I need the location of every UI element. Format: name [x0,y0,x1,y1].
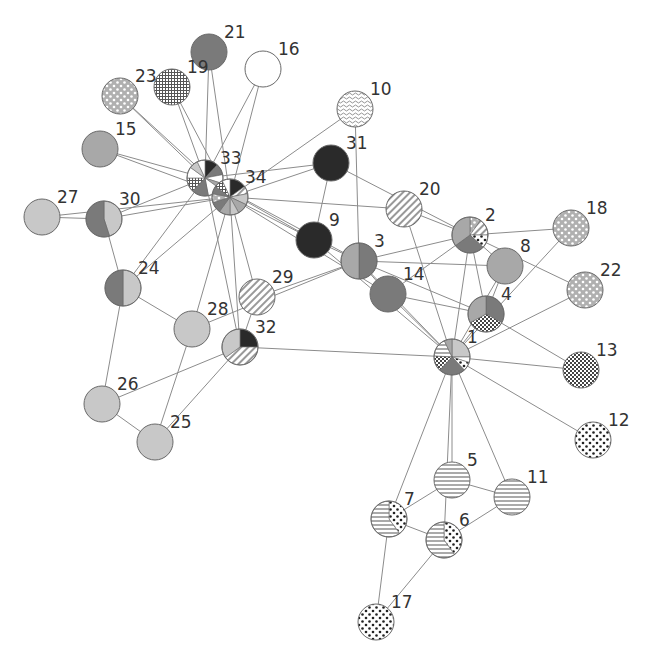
edge-25-32 [155,347,240,442]
node-10[interactable] [337,91,373,127]
edge-3-10 [355,109,359,261]
node-11[interactable] [494,479,530,515]
node-label-2: 2 [485,205,496,225]
node-18[interactable] [553,210,589,246]
node-label-6: 6 [459,510,470,530]
edge-1-6 [444,357,452,540]
node-label-31: 31 [346,133,368,153]
node-label-8: 8 [520,236,531,256]
node-16[interactable] [245,51,281,87]
node-label-7: 7 [404,489,415,509]
node-5[interactable] [434,462,470,498]
node-label-15: 15 [115,119,137,139]
node-1[interactable] [434,339,470,375]
node-label-13: 13 [596,340,618,360]
node-label-18: 18 [586,198,608,218]
node-label-23: 23 [135,66,157,86]
node-26[interactable] [84,386,120,422]
node-label-32: 32 [255,317,277,337]
node-label-25: 25 [170,412,192,432]
node-2[interactable] [452,217,488,253]
node-29[interactable] [239,279,275,315]
node-label-27: 27 [57,187,79,207]
node-label-21: 21 [224,22,246,42]
node-label-12: 12 [608,410,630,430]
node-label-1: 1 [467,327,478,347]
node-label-16: 16 [278,39,300,59]
node-label-19: 19 [187,57,209,77]
node-19[interactable] [154,69,190,105]
node-label-4: 4 [501,284,512,304]
node-31[interactable] [313,145,349,181]
node-label-9: 9 [329,210,340,230]
node-8[interactable] [487,248,523,284]
node-label-11: 11 [527,467,549,487]
edge-1-32 [240,347,452,357]
node-17[interactable] [358,604,394,640]
node-30[interactable] [86,201,122,237]
node-14[interactable] [370,276,406,312]
node-12[interactable] [575,422,611,458]
node-label-24: 24 [138,258,160,278]
node-label-22: 22 [600,260,622,280]
node-3[interactable] [341,243,377,279]
node-label-17: 17 [391,592,413,612]
node-25[interactable] [137,424,173,460]
node-15[interactable] [82,131,118,167]
network-graph: 1234567891011121314151617181920212223242… [0,0,646,660]
node-9[interactable] [296,222,332,258]
node-label-3: 3 [374,231,385,251]
nodes-layer [24,34,611,640]
node-28[interactable] [174,311,210,347]
node-23[interactable] [102,78,138,114]
node-34[interactable] [212,179,248,215]
node-label-10: 10 [370,79,392,99]
node-label-29: 29 [272,267,294,287]
node-24[interactable] [105,270,141,306]
node-22[interactable] [567,272,603,308]
node-label-33: 33 [220,148,242,168]
node-3-slice-1 [341,243,359,279]
node-32[interactable] [222,329,258,365]
node-27[interactable] [24,199,60,235]
node-label-26: 26 [117,374,139,394]
node-label-20: 20 [419,179,441,199]
node-13[interactable] [563,352,599,388]
node-label-5: 5 [467,450,478,470]
node-6[interactable] [426,522,462,558]
node-label-30: 30 [119,189,141,209]
node-label-34: 34 [245,167,267,187]
node-7[interactable] [371,501,407,537]
node-label-14: 14 [403,264,425,284]
node-20[interactable] [386,191,422,227]
node-24-slice-1 [105,270,123,306]
node-label-28: 28 [207,299,229,319]
